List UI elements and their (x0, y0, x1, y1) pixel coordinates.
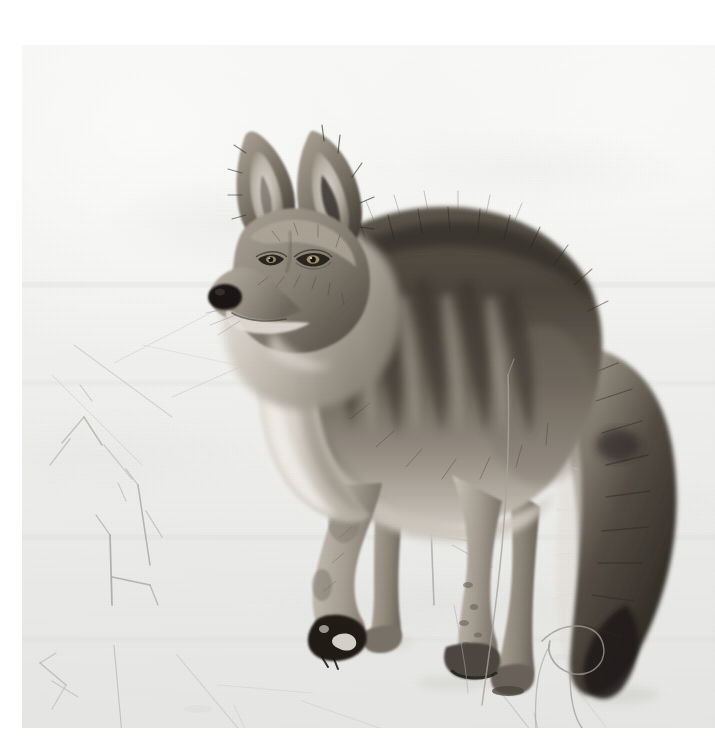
coyote-in-snow-photograph (22, 45, 715, 728)
head (206, 125, 401, 409)
page-root (0, 0, 715, 755)
nose (208, 284, 242, 310)
coyote-figure (22, 45, 715, 728)
photo-caption (22, 732, 715, 752)
